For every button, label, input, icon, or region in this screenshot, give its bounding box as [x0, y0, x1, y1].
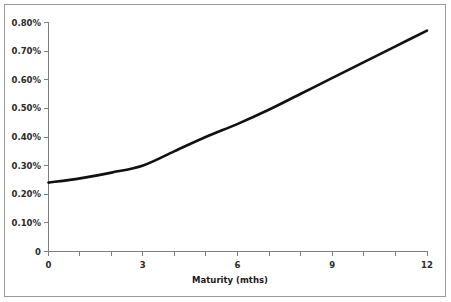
y-tick-label-040: 0.40%	[12, 132, 42, 142]
y-tick-label-070: 0.70%	[12, 46, 42, 56]
x-axis-title: Maturity (mths)	[192, 275, 268, 285]
y-tick-label-080: 0.80%	[12, 18, 42, 28]
x-tick-label-0: 0	[46, 260, 52, 270]
yield-curve-chart: 0.80% 0.70% 0.60% 0.50% 0.40% 0.30% 0.20…	[0, 0, 451, 302]
x-axis-major-ticks	[49, 252, 428, 257]
y-tick-label-060: 0.60%	[12, 75, 42, 85]
y-tick-label-020: 0.20%	[12, 189, 42, 199]
chart-screenshot: 0.80% 0.70% 0.60% 0.50% 0.40% 0.30% 0.20…	[0, 0, 451, 302]
x-tick-label-9: 9	[329, 260, 335, 270]
y-tick-label-010: 0.10%	[12, 218, 42, 228]
chart-svg: 0.80% 0.70% 0.60% 0.50% 0.40% 0.30% 0.20…	[0, 0, 451, 302]
y-tick-label-030: 0.30%	[12, 161, 42, 171]
x-tick-label-12: 12	[421, 260, 433, 270]
x-tick-label-6: 6	[235, 260, 241, 270]
yield-curve-line	[49, 31, 428, 183]
y-tick-label-050: 0.50%	[12, 103, 42, 113]
y-tick-label-000: 0	[35, 247, 41, 257]
x-tick-label-3: 3	[140, 260, 146, 270]
y-axis-ticks	[44, 23, 49, 252]
